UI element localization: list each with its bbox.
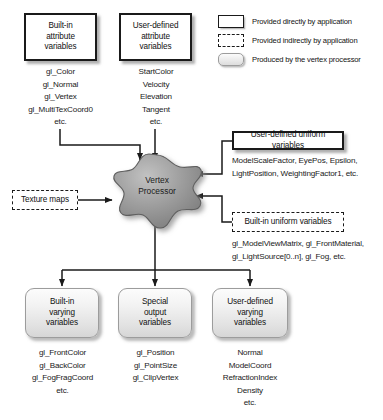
dashed-box-swatch-icon [218,34,244,47]
list-item: gl_FogFragCoord [15,372,110,385]
user-attribute-line1: User-defined [133,21,179,32]
user-defined-attribute-variables-box: User-defined attribute variables [119,13,192,61]
list-item: Normal [205,347,295,360]
user-uniform-label: User-defined uniform variables [234,130,342,152]
list-item: gl_FrontColor [15,347,110,360]
builtin-attribute-line3: variables [45,42,77,53]
list-item: Velocity [115,79,197,92]
list-item: etc. [205,397,295,410]
rounded-box-swatch-icon [218,53,244,66]
builtin-attribute-line1: Built-in [48,21,72,32]
user-defined-varying-variable-list: Normal ModelCoord RefractionIndex Densit… [205,347,295,410]
list-item: gl_ModelViewMatrix, gl_FrontMaterial, [232,238,383,251]
list-item: gl_Vertex [8,91,113,104]
user-attribute-line3: variables [140,42,172,53]
builtin-uniform-variables-box: Built-in uniform variables [232,212,344,232]
list-item: gl_MultiTexCoord0 [8,104,113,117]
legend-item-direct: Provided directly by application [218,12,383,31]
builtin-varying-variable-list: gl_FrontColor gl_BackColor gl_FogFragCoo… [15,347,110,397]
list-item: gl_BackColor [15,360,110,373]
special-output-line1: Special [142,297,168,308]
legend-item-indirect: Provided indirectly by application [218,31,383,50]
list-item: etc. [115,116,197,129]
texture-maps-label: Texture maps [21,195,69,206]
builtin-varying-line2: varying [49,308,75,319]
diagram-canvas: Vertex Processor Provided directly by ap… [0,0,383,420]
texture-maps-box: Texture maps [12,190,78,210]
special-output-variable-list: gl_Position gl_PointSize gl_ClipVertex [113,347,198,385]
builtin-varying-variables-box: Built-in varying variables [25,288,99,338]
list-item: gl_Position [113,347,198,360]
user-attribute-line2: attribute [141,32,170,43]
list-item: etc. [15,385,110,398]
wire-builtin-attribute [60,129,140,160]
legend: Provided directly by application Provide… [218,12,383,69]
user-defined-uniform-variable-list: ModelScaleFactor, EyePos, Epsilon, Light… [232,155,383,180]
list-item: Elevation [115,91,197,104]
user-varying-line2: varying [237,308,263,319]
legend-label-indirect: Provided indirectly by application [252,36,358,45]
solid-box-swatch-icon [218,15,244,28]
list-item: gl_PointSize [113,360,198,373]
wire-builtin-uniform [196,196,232,222]
legend-label-produced: Produced by the vertex processor [252,55,361,64]
builtin-attribute-line2: attribute [46,32,75,43]
builtin-uniform-label: Built-in uniform variables [244,217,331,228]
vertex-processor-label: Vertex Processor [119,168,195,204]
list-item: RefractionIndex [205,372,295,385]
vertex-processor-label-line2: Processor [138,186,176,197]
user-varying-line1: User-defined [227,297,273,308]
special-output-line2: output [144,308,166,319]
list-item: Density [205,385,295,398]
builtin-varying-line1: Built-in [50,297,74,308]
builtin-attribute-variable-list: gl_Color gl_Normal gl_Vertex gl_MultiTex… [8,66,113,129]
builtin-attribute-variables-box: Built-in attribute variables [24,13,97,61]
list-item: StartColor [115,66,197,79]
list-item: gl_LightSource[0..n], gl_Fog, etc. [232,251,383,264]
list-item: etc. [8,116,113,129]
user-varying-line3: variables [234,318,266,329]
legend-label-direct: Provided directly by application [252,17,352,26]
list-item: Tangent [115,104,197,117]
wire-user-uniform [196,141,232,174]
builtin-varying-line3: variables [46,318,78,329]
list-item: gl_Normal [8,79,113,92]
vertex-processor-label-line1: Vertex [145,175,169,186]
list-item: ModelCoord [205,360,295,373]
user-defined-uniform-variables-box: User-defined uniform variables [232,131,344,150]
list-item: LightPosition, WeightingFactor1, etc. [232,168,383,181]
list-item: ModelScaleFactor, EyePos, Epsilon, [232,155,383,168]
list-item: gl_ClipVertex [113,372,198,385]
special-output-line3: variables [139,318,171,329]
legend-item-produced: Produced by the vertex processor [218,50,383,69]
user-defined-varying-variables-box: User-defined varying variables [212,288,288,338]
builtin-uniform-variable-list: gl_ModelViewMatrix, gl_FrontMaterial, gl… [232,238,383,263]
user-defined-attribute-variable-list: StartColor Velocity Elevation Tangent et… [115,66,197,129]
special-output-variables-box: Special output variables [118,288,192,338]
list-item: gl_Color [8,66,113,79]
